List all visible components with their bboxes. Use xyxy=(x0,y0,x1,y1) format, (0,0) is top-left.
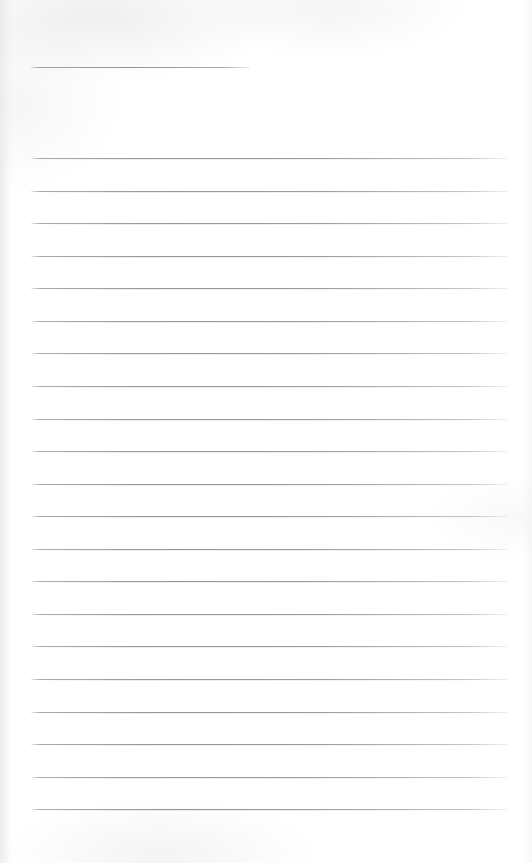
ruled-line[interactable] xyxy=(31,777,508,778)
ruled-line[interactable] xyxy=(31,288,508,289)
ruled-line[interactable] xyxy=(31,712,508,713)
page-left-edge-shadow xyxy=(0,0,10,863)
ruled-line[interactable] xyxy=(31,451,508,452)
ruled-line[interactable] xyxy=(31,191,508,192)
ruled-line[interactable] xyxy=(31,614,508,615)
ruled-line[interactable] xyxy=(31,744,508,745)
ruled-line[interactable] xyxy=(31,419,508,420)
ruled-line[interactable] xyxy=(31,321,508,322)
title-rule xyxy=(31,67,250,68)
ruled-line[interactable] xyxy=(31,516,508,517)
ruled-line[interactable] xyxy=(31,223,508,224)
ruled-line[interactable] xyxy=(31,549,508,550)
ruled-line[interactable] xyxy=(31,484,508,485)
ruled-line[interactable] xyxy=(31,353,508,354)
ruled-line[interactable] xyxy=(31,809,508,810)
ruled-line[interactable] xyxy=(31,581,508,582)
ruled-line[interactable] xyxy=(31,679,508,680)
note-page xyxy=(0,0,532,863)
ruled-line[interactable] xyxy=(31,158,508,159)
ruled-line[interactable] xyxy=(31,646,508,647)
ruled-line[interactable] xyxy=(31,386,508,387)
ruled-line[interactable] xyxy=(31,256,508,257)
paper-texture xyxy=(0,0,532,863)
page-right-edge-shadow xyxy=(524,0,532,863)
